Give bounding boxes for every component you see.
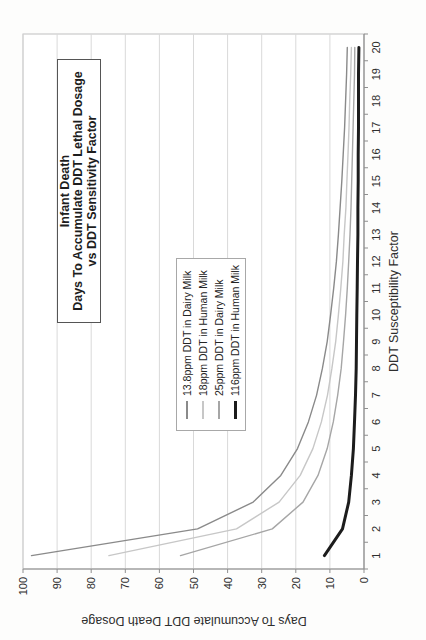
- x-tick-label: 9: [370, 329, 382, 355]
- y-tick-label: 80: [85, 577, 97, 607]
- legend-label: 13.8ppm DDT in Dairy Milk: [182, 271, 193, 396]
- x-tick-label: 8: [370, 355, 382, 381]
- x-tick-label: 7: [370, 382, 382, 408]
- y-tick-label: 50: [188, 577, 200, 607]
- rotated-chart: 0102030405060708090100123456789101112131…: [0, 0, 426, 640]
- y-tick-label: 20: [290, 577, 302, 607]
- x-tick-label: 12: [370, 248, 382, 274]
- x-tick-label: 17: [370, 115, 382, 141]
- x-tick-label: 3: [370, 489, 382, 515]
- legend-line-swatch: [218, 401, 219, 419]
- x-tick-label: 2: [370, 516, 382, 542]
- x-tick-label: 16: [370, 141, 382, 167]
- x-tick-label: 11: [370, 275, 382, 301]
- x-tick-label: 6: [370, 409, 382, 435]
- y-tick-label: 0: [358, 577, 370, 607]
- x-tick-label: 18: [370, 88, 382, 114]
- chart-title-box: Infant Death Days To Accumulate DDT Leth…: [57, 59, 101, 323]
- legend: 13.8ppm DDT in Dairy Milk 18ppm DDT in H…: [176, 258, 246, 431]
- y-tick-label: 30: [256, 577, 268, 607]
- chart-title-line-3: vs DDT Sensitivity Factor: [86, 116, 100, 267]
- x-tick-label: 15: [370, 168, 382, 194]
- y-tick-label: 40: [222, 577, 234, 607]
- legend-label: 25ppm DDT in Dairy Milk: [214, 280, 225, 397]
- x-tick-label: 1: [370, 543, 382, 569]
- legend-item: 13.8ppm DDT in Dairy Milk: [179, 259, 195, 419]
- y-tick-label: 10: [324, 577, 336, 607]
- x-tick-label: 10: [370, 302, 382, 328]
- x-tick-label: 20: [370, 34, 382, 60]
- legend-line-swatch: [234, 401, 237, 419]
- scanned-page: 0102030405060708090100123456789101112131…: [0, 0, 426, 640]
- x-tick-label: 4: [370, 462, 382, 488]
- y-tick-label: 90: [51, 577, 63, 607]
- legend-item: 116ppm DDT in Human Milk: [227, 259, 243, 419]
- x-tick-label: 13: [370, 222, 382, 248]
- y-tick-label: 60: [153, 577, 165, 607]
- legend-item: 25ppm DDT in Dairy Milk: [211, 259, 227, 419]
- y-tick-label: 70: [119, 577, 131, 607]
- legend-line-swatch: [186, 401, 187, 419]
- chart-title-line-2: Days To Accumulate DDT Lethal Dosage: [72, 71, 86, 311]
- x-tick-label: 5: [370, 436, 382, 462]
- legend-item: 18ppm DDT in Human Milk: [195, 259, 211, 419]
- x-tick-label: 19: [370, 61, 382, 87]
- legend-label: 116ppm DDT in Human Milk: [230, 265, 241, 396]
- y-axis-title: Days To Accumulate DDT Death Dosage: [81, 614, 306, 628]
- x-tick-label: 14: [370, 195, 382, 221]
- legend-line-swatch: [202, 401, 203, 419]
- y-tick-label: 100: [17, 577, 29, 607]
- chart-title-line-1: Infant Death: [59, 155, 73, 227]
- x-axis-title: DDT Susceptibility Factor: [387, 34, 401, 569]
- legend-label: 18ppm DDT in Human Milk: [198, 270, 209, 396]
